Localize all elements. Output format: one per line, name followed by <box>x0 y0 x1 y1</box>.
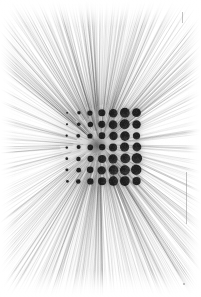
right-margin-rule-mark <box>186 172 187 224</box>
top-right-tick-mark <box>182 12 183 23</box>
graduated-dot-grid <box>0 0 201 297</box>
artwork-plate <box>0 0 201 297</box>
bottom-right-speck-mark <box>183 283 185 285</box>
artwork-canvas <box>0 0 201 297</box>
